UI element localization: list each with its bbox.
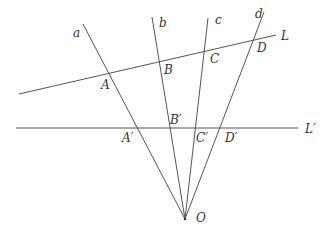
label-O: O	[196, 211, 206, 225]
label-D: D	[256, 41, 267, 55]
label-ray-d: d	[255, 7, 263, 21]
line-L	[19, 35, 276, 94]
label-L-prime: L′	[304, 122, 316, 136]
label-C-prime: C′	[196, 131, 208, 145]
label-D-prime: D′	[224, 131, 238, 145]
diagram-canvas: a b c d L L′ A B C D A′ B′ C′ D′ O	[0, 0, 332, 233]
label-B: B	[163, 63, 173, 77]
label-A: A	[100, 78, 110, 92]
label-ray-b: b	[159, 16, 167, 30]
label-ray-c: c	[215, 13, 222, 27]
label-B-prime: B′	[169, 113, 182, 127]
label-C: C	[210, 52, 219, 66]
label-L: L	[280, 29, 289, 43]
label-A-prime: A′	[121, 131, 134, 145]
point-O	[184, 218, 187, 221]
label-ray-a: a	[73, 26, 80, 40]
